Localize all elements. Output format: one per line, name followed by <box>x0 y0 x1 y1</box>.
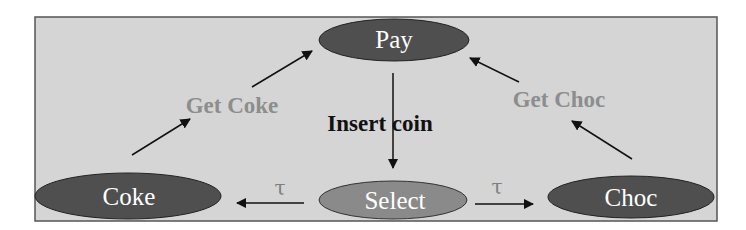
node-coke-label: Coke <box>103 183 156 210</box>
node-choc-label: Choc <box>605 184 658 211</box>
node-select-label: Select <box>364 187 425 214</box>
vending-machine-diagram: Pay Select Coke Choc Get Coke Get Choc I… <box>0 0 746 230</box>
node-coke: Coke <box>35 173 221 219</box>
edge-label-tau-coke: τ <box>274 176 285 200</box>
edge-label-get-choc: Get Choc <box>513 87 606 112</box>
node-pay: Pay <box>319 19 469 61</box>
node-pay-label: Pay <box>375 26 413 53</box>
node-select: Select <box>319 181 467 219</box>
edge-label-get-coke: Get Coke <box>186 93 279 118</box>
edge-label-tau-choc: τ <box>491 175 502 199</box>
node-choc: Choc <box>548 176 714 218</box>
edge-label-insert-coin: Insert coin <box>327 111 433 136</box>
